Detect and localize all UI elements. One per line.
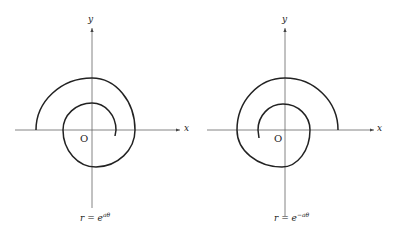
left-origin-label: O [80, 133, 88, 144]
right-figure [207, 28, 374, 216]
left-spiral-curve [36, 78, 135, 167]
left-y-label: y [88, 14, 93, 24]
right-x-label: x [377, 123, 382, 133]
left-x-label: x [184, 123, 189, 133]
left-equation: r = eaθ [80, 211, 110, 223]
left-figure [15, 28, 180, 208]
left-equation-exponent: aθ [103, 211, 110, 218]
right-y-label: y [282, 14, 287, 24]
right-equation: r = e−aθ [274, 211, 309, 223]
right-equation-base: r = e [274, 213, 297, 223]
left-equation-base: r = e [80, 213, 103, 223]
spiral-diagrams [0, 0, 393, 241]
right-spiral-curve [237, 78, 338, 167]
right-equation-exponent: −aθ [297, 211, 309, 218]
right-origin-label: O [274, 133, 282, 144]
